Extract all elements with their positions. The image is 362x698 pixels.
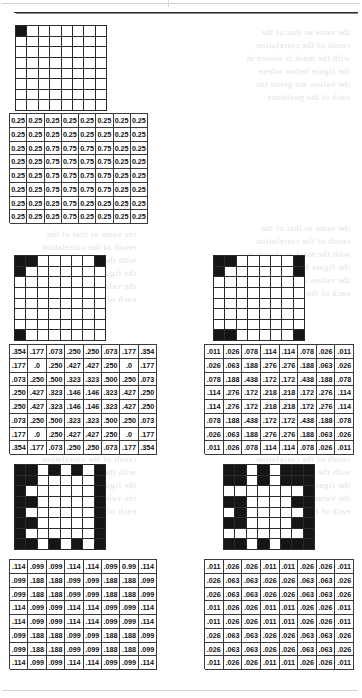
matrix-cell: 0.25 <box>27 210 44 224</box>
grid-cell <box>271 288 281 298</box>
grid-cell <box>304 508 314 518</box>
grid-cell <box>72 476 82 486</box>
grid-cell <box>49 299 59 309</box>
matrix-cell: .250 <box>139 386 157 400</box>
matrix-cell: .099 <box>10 574 28 588</box>
grid-cell <box>270 476 280 486</box>
matrix-cell: .250 <box>10 386 28 400</box>
matrix-cell: .099 <box>120 656 138 670</box>
pattern-grid-4 <box>213 255 305 341</box>
matrix-cell: .026 <box>335 588 354 602</box>
matrix-cell: .114 <box>280 441 299 455</box>
matrix-cell: .011 <box>205 601 224 615</box>
grid-cell <box>282 299 292 309</box>
grid-cell <box>83 256 93 266</box>
matrix-cell: .427 <box>28 400 46 414</box>
matrix-cell: .063 <box>298 629 317 643</box>
grid-cell <box>61 518 71 528</box>
matrix-cell: .114 <box>335 400 354 414</box>
matrix-cell: .099 <box>139 588 157 602</box>
grid-cell <box>247 497 257 507</box>
matrix-cell: 0.75 <box>96 142 113 156</box>
matrix-cell: .250 <box>65 441 83 455</box>
grid-cell <box>27 79 37 89</box>
matrix-cell: .427 <box>28 386 46 400</box>
matrix-cell: .026 <box>205 359 224 373</box>
matrix-cell: .250 <box>84 441 102 455</box>
matrix-cell: .250 <box>102 359 120 373</box>
matrix-cell: .114 <box>10 615 28 629</box>
matrix-cell: .323 <box>47 400 65 414</box>
grid-cell <box>237 309 247 319</box>
grid-cell <box>49 256 59 266</box>
grid-cell <box>84 47 94 57</box>
grid-cell <box>39 26 49 36</box>
grid-cell <box>237 277 247 287</box>
grid-cell <box>225 320 235 330</box>
matrix-cell: .188 <box>224 373 243 387</box>
grid-cell <box>235 539 245 549</box>
grid-cell <box>260 299 270 309</box>
grid-cell <box>95 529 105 539</box>
grid-cell <box>292 539 302 549</box>
matrix-cell: .026 <box>242 656 261 670</box>
matrix-cell: .011 <box>205 615 224 629</box>
matrix-cell: .177 <box>10 359 28 373</box>
grid-cell <box>248 320 258 330</box>
matrix-cell: .063 <box>317 629 336 643</box>
matrix-cell: 0.25 <box>114 155 131 169</box>
grid-cell <box>83 309 93 319</box>
grid-cell <box>49 518 59 528</box>
matrix-cell: .026 <box>242 560 261 574</box>
matrix-cell: .026 <box>205 588 224 602</box>
grid-cell <box>247 518 257 528</box>
matrix-cell: .026 <box>335 574 354 588</box>
grid-cell <box>258 508 268 518</box>
matrix-cell: .026 <box>335 428 354 442</box>
matrix-cell: 0.75 <box>62 155 79 169</box>
grid-cell <box>73 47 83 57</box>
grid-cell <box>95 299 105 309</box>
matrix-cell: .276 <box>261 359 280 373</box>
matrix-cell: 0.25 <box>131 155 148 169</box>
grid-cell <box>26 539 36 549</box>
grid-cell <box>39 79 49 89</box>
grid-cell <box>83 539 93 549</box>
matrix-cell: .438 <box>242 414 261 428</box>
matrix-cell: .146 <box>84 400 102 414</box>
matrix-cell: .011 <box>261 656 280 670</box>
grid-cell <box>27 58 37 68</box>
grid-cell <box>38 476 48 486</box>
matrix-cell: 0.75 <box>96 183 113 197</box>
matrix-cell: .099 <box>102 560 120 574</box>
grid-cell <box>95 539 105 549</box>
matrix-cell: 0.25 <box>10 169 27 183</box>
grid-cell <box>260 320 270 330</box>
matrix-cell: .011 <box>280 656 299 670</box>
grid-cell <box>83 320 93 330</box>
grid-cell <box>27 47 37 57</box>
matrix-cell: .188 <box>298 359 317 373</box>
matrix-cell: 0.25 <box>27 128 44 142</box>
matrix-cell: .188 <box>242 359 261 373</box>
grid-cell <box>15 476 25 486</box>
grid-cell <box>96 100 106 110</box>
matrix-cell: .323 <box>84 373 102 387</box>
grid-cell <box>16 47 26 57</box>
matrix-cell: .114 <box>84 560 102 574</box>
matrix-cell: .276 <box>317 386 336 400</box>
grid-cell <box>16 58 26 68</box>
matrix-cell: .188 <box>317 373 336 387</box>
grid-cell <box>38 330 48 340</box>
matrix-cell: .188 <box>120 588 138 602</box>
grid-cell <box>38 309 48 319</box>
matrix-cell: .354 <box>10 441 28 455</box>
grid-cell <box>15 529 25 539</box>
matrix-cell: .500 <box>102 373 120 387</box>
matrix-cell: .427 <box>84 359 102 373</box>
pattern-grid-1 <box>15 25 107 111</box>
matrix-cell: .0 <box>120 359 138 373</box>
matrix-cell: 0.75 <box>79 142 96 156</box>
grid-cell <box>49 309 59 319</box>
matrix-cell: 0.75 <box>79 155 96 169</box>
